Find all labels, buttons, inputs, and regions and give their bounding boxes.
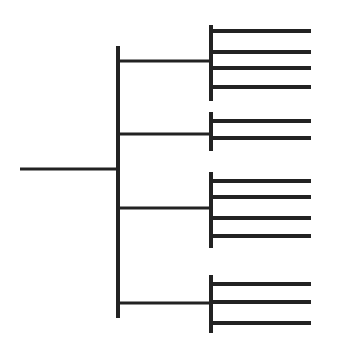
tree-diagram-svg — [0, 0, 337, 339]
tree-diagram — [0, 0, 337, 339]
